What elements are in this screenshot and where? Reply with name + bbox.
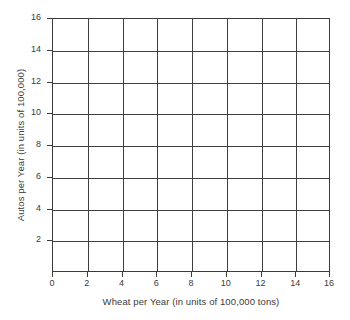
gridline-vertical bbox=[227, 19, 228, 271]
y-axis-tick bbox=[47, 240, 52, 241]
gridline-horizontal bbox=[53, 178, 329, 179]
chart-container: Autos per Year (in units of 100,000) 0 2… bbox=[0, 0, 350, 320]
y-axis-tick bbox=[47, 113, 52, 114]
x-axis-tick-label: 16 bbox=[314, 278, 344, 288]
y-axis-tick bbox=[47, 209, 52, 210]
x-axis-tick bbox=[156, 272, 157, 277]
y-axis-tick bbox=[47, 50, 52, 51]
gridline-vertical bbox=[262, 19, 263, 271]
gridline-horizontal bbox=[53, 114, 329, 115]
x-axis-tick bbox=[261, 272, 262, 277]
x-axis-tick bbox=[122, 272, 123, 277]
gridline-horizontal bbox=[53, 83, 329, 84]
x-axis-tick-label: 14 bbox=[280, 278, 310, 288]
x-axis-tick bbox=[295, 272, 296, 277]
y-axis-tick-label: 14 bbox=[19, 44, 41, 54]
gridline-vertical bbox=[192, 19, 193, 271]
gridline-horizontal bbox=[53, 210, 329, 211]
y-axis-tick-label: 16 bbox=[19, 12, 41, 22]
x-axis-tick bbox=[87, 272, 88, 277]
x-axis-tick bbox=[329, 272, 330, 277]
y-axis-tick-label: 6 bbox=[19, 171, 41, 181]
y-axis-tick-label: 4 bbox=[19, 203, 41, 213]
x-axis-tick-label: 4 bbox=[107, 278, 137, 288]
gridline-vertical bbox=[88, 19, 89, 271]
y-axis-tick bbox=[47, 82, 52, 83]
gridline-vertical bbox=[123, 19, 124, 271]
gridline-horizontal bbox=[53, 51, 329, 52]
x-axis-title: Wheat per Year (in units of 100,000 tons… bbox=[52, 296, 330, 307]
gridline-horizontal bbox=[53, 146, 329, 147]
x-axis-tick-label: 8 bbox=[176, 278, 206, 288]
y-axis-tick-label: 8 bbox=[19, 139, 41, 149]
y-axis-tick bbox=[47, 145, 52, 146]
gridline-vertical bbox=[296, 19, 297, 271]
x-axis-tick-label: 2 bbox=[72, 278, 102, 288]
y-axis-tick-label: 12 bbox=[19, 76, 41, 86]
x-axis-tick bbox=[226, 272, 227, 277]
x-axis-tick-label: 12 bbox=[246, 278, 276, 288]
plot-area bbox=[52, 18, 330, 272]
y-axis-tick bbox=[47, 18, 52, 19]
gridline-vertical bbox=[157, 19, 158, 271]
x-axis-tick-label: 6 bbox=[141, 278, 171, 288]
y-axis-tick-label: 10 bbox=[19, 107, 41, 117]
y-axis-tick-label: 2 bbox=[19, 234, 41, 244]
y-axis-tick bbox=[47, 177, 52, 178]
x-axis-tick-label: 10 bbox=[211, 278, 241, 288]
gridline-horizontal bbox=[53, 241, 329, 242]
x-axis-tick-label: 0 bbox=[37, 278, 67, 288]
x-axis-tick bbox=[191, 272, 192, 277]
x-axis-tick bbox=[52, 272, 53, 277]
